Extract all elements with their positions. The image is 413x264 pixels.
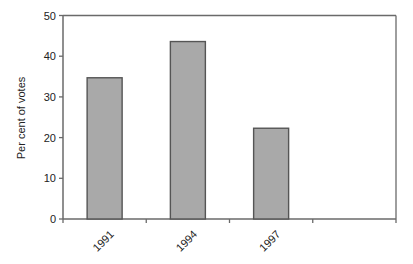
y-axis-title: Per cent of votes: [15, 76, 27, 159]
y-tick-label: 40: [44, 50, 56, 62]
y-tick-label: 50: [44, 10, 56, 22]
bar-1991: [87, 78, 122, 219]
y-axis-ticks: 01020304050: [44, 10, 63, 226]
y-tick-label: 10: [44, 172, 56, 184]
bar-1997: [254, 128, 289, 219]
y-tick-label: 20: [44, 132, 56, 144]
x-axis-ticks: 199119941997: [63, 219, 396, 254]
x-tick-label: 1997: [257, 228, 283, 254]
y-tick-label: 30: [44, 91, 56, 103]
bars: [87, 42, 289, 219]
x-tick-label: 1991: [90, 228, 116, 254]
y-tick-label: 0: [50, 213, 56, 225]
bar-chart: 01020304050 199119941997 Per cent of vot…: [0, 0, 413, 264]
x-tick-label: 1994: [173, 228, 199, 254]
bar-1994: [170, 42, 205, 219]
